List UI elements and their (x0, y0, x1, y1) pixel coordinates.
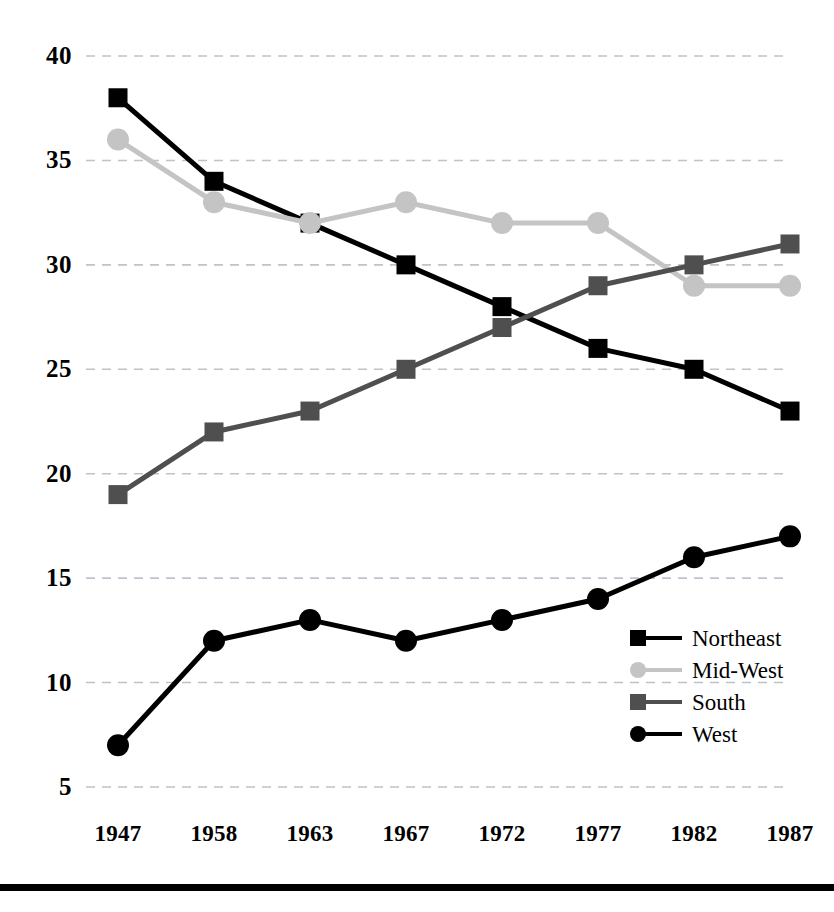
bottom-divider-rule (0, 884, 834, 891)
legend-swatch (628, 722, 684, 746)
data-point-marker: Mid-West 1958: 33 (203, 191, 225, 213)
y-axis-tick-label: 35 (12, 147, 72, 172)
data-point-marker: South 1972: 27 (493, 318, 512, 337)
x-axis-tick-label: 1963 (265, 822, 355, 845)
x-axis-tick-label: 1987 (745, 822, 834, 845)
data-point-marker: West 1987: 17 (779, 525, 801, 547)
data-point-marker: Mid-West 1977: 32 (587, 212, 609, 234)
data-point-marker: South 1958: 22 (205, 422, 224, 441)
data-point-marker: Northeast 1987: 23 (781, 402, 800, 421)
x-axis-tick-label: 1982 (649, 822, 739, 845)
legend-swatch (628, 690, 684, 714)
legend-swatch (628, 626, 684, 650)
data-point-marker: Northeast 1947: 38 (109, 88, 128, 107)
legend-label: Northeast (684, 627, 781, 650)
data-point-marker: Mid-West 1982: 29 (683, 275, 705, 297)
y-axis-tick-label: 15 (12, 565, 72, 590)
y-axis-tick-label: 10 (12, 670, 72, 695)
data-point-marker: Northeast 1972: 28 (493, 297, 512, 316)
legend-swatch (628, 658, 684, 682)
x-axis-tick-label: 1972 (457, 822, 547, 845)
y-axis-tick-label: 5 (12, 774, 72, 799)
data-point-marker: Mid-West 1987: 29 (779, 275, 801, 297)
legend-square-marker-icon (630, 630, 646, 646)
x-axis-tick-label: 1958 (169, 822, 259, 845)
data-point-marker: Mid-West 1967: 33 (395, 191, 417, 213)
y-axis-tick-label: 40 (12, 43, 72, 68)
x-axis-tick-label: 1947 (73, 822, 163, 845)
data-point-marker: Mid-West 1963: 32 (299, 212, 321, 234)
data-point-marker: South 1977: 29 (589, 276, 608, 295)
y-axis-tick-label: 30 (12, 252, 72, 277)
data-point-marker: Northeast 1967: 30 (397, 255, 416, 274)
legend-item-west[interactable]: West (628, 718, 828, 750)
data-point-marker: Mid-West 1972: 32 (491, 212, 513, 234)
data-point-marker: Northeast 1958: 34 (205, 172, 224, 191)
legend-label: South (684, 691, 746, 714)
legend-item-northeast[interactable]: Northeast (628, 622, 828, 654)
data-point-marker: Mid-West 1947: 36 (107, 129, 129, 151)
data-point-marker: West 1967: 12 (395, 630, 417, 652)
x-axis-tick-label: 1977 (553, 822, 643, 845)
data-point-marker: Northeast 1982: 25 (685, 360, 704, 379)
data-point-marker: West 1947: 7 (107, 734, 129, 756)
data-point-marker: West 1963: 13 (299, 609, 321, 631)
data-point-marker: South 1963: 23 (301, 402, 320, 421)
line-chart: Northeast 1947: 38Northeast 1958: 34Nort… (0, 0, 834, 912)
data-point-marker: West 1972: 13 (491, 609, 513, 631)
legend-label: Mid-West (684, 659, 783, 682)
data-point-marker: West 1982: 16 (683, 546, 705, 568)
series-northeast: Northeast 1947: 38Northeast 1958: 34Nort… (109, 88, 800, 420)
legend-item-mid-west[interactable]: Mid-West (628, 654, 828, 686)
legend-square-marker-icon (630, 694, 646, 710)
y-axis-tick-label: 25 (12, 356, 72, 381)
x-axis-tick-label: 1967 (361, 822, 451, 845)
y-axis-tick-label: 20 (12, 461, 72, 486)
chart-legend: NortheastMid-WestSouthWest (628, 622, 828, 750)
data-point-marker: South 1967: 25 (397, 360, 416, 379)
data-point-marker: South 1987: 31 (781, 234, 800, 253)
data-point-marker: South 1947: 19 (109, 485, 128, 504)
data-point-marker: West 1958: 12 (203, 630, 225, 652)
data-point-marker: West 1977: 14 (587, 588, 609, 610)
legend-circle-marker-icon (630, 662, 646, 678)
legend-item-south[interactable]: South (628, 686, 828, 718)
data-point-marker: South 1982: 30 (685, 255, 704, 274)
legend-circle-marker-icon (630, 726, 646, 742)
chart-plot-area: Northeast 1947: 38Northeast 1958: 34Nort… (0, 0, 834, 912)
data-point-marker: Northeast 1977: 26 (589, 339, 608, 358)
legend-label: West (684, 723, 737, 746)
